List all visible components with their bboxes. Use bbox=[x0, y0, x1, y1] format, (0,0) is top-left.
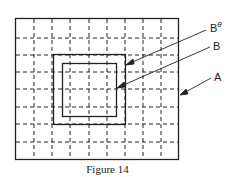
label-b: B bbox=[213, 40, 220, 52]
label-a: A bbox=[214, 71, 221, 83]
figure-caption: Figure 14 bbox=[0, 163, 215, 175]
dashed-grid bbox=[16, 19, 178, 159]
label-b-theta: Bθ bbox=[210, 20, 222, 34]
pointer-arrows bbox=[117, 30, 211, 95]
grid-diagram bbox=[0, 0, 238, 177]
